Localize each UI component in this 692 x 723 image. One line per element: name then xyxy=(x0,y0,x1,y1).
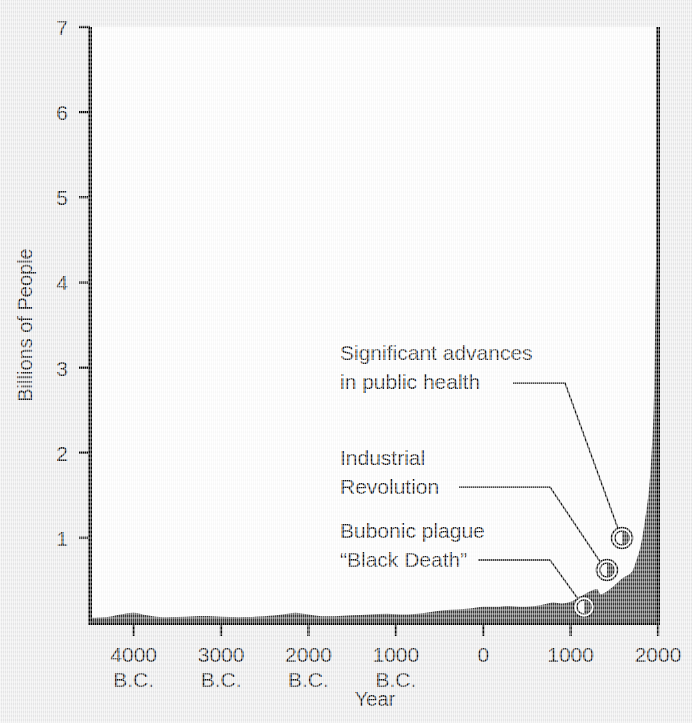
x-axis-ticks: 4000B.C.3000B.C.2000B.C.1000B.C.01000200… xyxy=(110,623,681,691)
x-tick-era-label: B.C. xyxy=(113,668,154,691)
annotation-industrial-revolution-marker xyxy=(597,560,618,581)
annotation-black-death-line1: Bubonic plague xyxy=(340,519,485,542)
y-tick-label: 7 xyxy=(56,16,68,39)
x-tick-era-label: B.C. xyxy=(288,668,329,691)
y-tick-label: 4 xyxy=(56,271,68,294)
y-tick-label: 3 xyxy=(56,357,68,380)
y-tick-label: 2 xyxy=(56,442,68,465)
x-tick-label: 1000 xyxy=(547,643,594,666)
annotation-industrial-revolution-line2: Revolution xyxy=(340,475,439,498)
y-tick-label: 6 xyxy=(56,101,68,124)
x-tick-label: 0 xyxy=(477,643,489,666)
x-tick-era-label: B.C. xyxy=(201,668,242,691)
y-axis-ticks: 1234567 xyxy=(56,16,90,550)
y-tick-label: 5 xyxy=(56,186,68,209)
chart-canvas: 1234567 4000B.C.3000B.C.2000B.C.1000B.C.… xyxy=(0,0,692,723)
annotation-black-death-line2: “Black Death” xyxy=(340,548,467,571)
x-axis-title: Year xyxy=(355,688,396,710)
y-axis-title: Billions of People xyxy=(14,248,36,401)
y-tick-label: 1 xyxy=(56,527,68,550)
x-tick-label: 1000 xyxy=(372,643,419,666)
annotation-black-death-marker xyxy=(574,597,595,618)
annotation-significant-advances-line2: in public health xyxy=(340,370,480,393)
population-growth-figure: 1234567 4000B.C.3000B.C.2000B.C.1000B.C.… xyxy=(0,0,692,723)
x-tick-label: 3000 xyxy=(198,643,245,666)
annotation-significant-advances-marker xyxy=(612,528,633,549)
x-tick-label: 2000 xyxy=(635,643,682,666)
x-tick-label: 2000 xyxy=(285,643,332,666)
annotation-significant-advances-line1: Significant advances xyxy=(340,341,533,364)
annotation-industrial-revolution-line1: Industrial xyxy=(340,446,425,469)
x-tick-label: 4000 xyxy=(110,643,157,666)
